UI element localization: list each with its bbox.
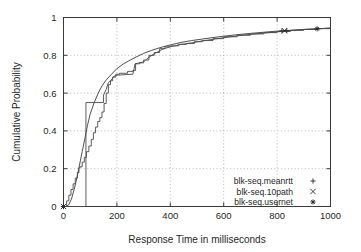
x-tick-label: 800	[269, 210, 285, 221]
data-point-marker	[279, 28, 284, 33]
chart-canvas: 02004006008001000 00.20.40.60.81 Respons…	[0, 0, 361, 252]
y-tick-label: 0.6	[43, 88, 56, 99]
y-axis-title: Cumulative Probability	[11, 62, 22, 162]
data-point-marker	[310, 178, 315, 183]
y-tick-labels: 00.20.40.60.81	[43, 12, 56, 212]
x-tick-label: 0	[61, 210, 66, 221]
legend-label-star: blk-seq.usernet	[234, 197, 293, 207]
legend-label-plus: blk-seq.meanrtt	[234, 176, 294, 186]
y-tick-label: 0.2	[43, 163, 56, 174]
data-point-marker	[315, 26, 320, 31]
data-point-marker	[61, 204, 66, 209]
y-tick-label: 0	[51, 201, 56, 212]
data-point-marker	[310, 199, 315, 204]
y-tick-label: 0.8	[43, 50, 56, 61]
y-tick-label: 1	[51, 12, 56, 23]
x-tick-label: 400	[162, 210, 178, 221]
y-tick-label: 0.4	[43, 125, 56, 136]
legend-label-cross: blk-seq.10path	[237, 187, 294, 197]
data-point-marker	[310, 189, 315, 194]
chart-legend: blk-seq.meanrttblk-seq.10pathblk-seq.use…	[234, 176, 316, 207]
x-tick-label: 1000	[320, 210, 341, 221]
x-tick-labels: 02004006008001000	[61, 210, 341, 221]
x-tick-label: 600	[216, 210, 232, 221]
x-axis-title: Response Time in milliseconds	[128, 234, 265, 245]
x-tick-label: 200	[109, 210, 125, 221]
cdf-chart: 02004006008001000 00.20.40.60.81 Respons…	[0, 0, 361, 252]
